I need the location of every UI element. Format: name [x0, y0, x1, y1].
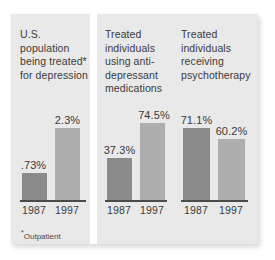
bar-value-label: .73% [21, 159, 46, 171]
axis-tick-labels: 1987 1997 [97, 204, 173, 218]
bar-value-label: 2.3% [55, 114, 80, 126]
panel-caption: Treated individuals receiving psychother… [181, 28, 254, 82]
bar-value-label: 60.2% [216, 125, 248, 137]
plot-area: 37.3% 74.5% [97, 106, 173, 202]
axis-baseline [20, 200, 86, 202]
axis-tick-labels: 1987 1997 [173, 204, 258, 218]
bar-1987: 71.1% [183, 128, 210, 200]
bar-1987: 37.3% [107, 158, 132, 200]
chart-panel-psychotherapy: Treated individuals receiving psychother… [173, 14, 258, 244]
caption-line: using anti- [105, 55, 171, 69]
caption-line: depressant [105, 69, 171, 83]
caption-line: Treated [105, 28, 171, 42]
chart-panel-antidepressant-medications: Treated individuals using anti- depressa… [97, 14, 173, 244]
caption-line: psychotherapy [181, 69, 254, 83]
axis-label-1997: 1997 [55, 204, 79, 216]
bar-1997: 74.5% [140, 123, 165, 200]
axis-tick-labels: 1987 1997 [11, 204, 90, 218]
caption-line: U.S. [20, 28, 86, 42]
bar-1997: 60.2% [218, 139, 245, 200]
bar-1997: 2.3% [55, 128, 80, 200]
axis-baseline [105, 200, 167, 202]
caption-line: individuals [181, 42, 254, 56]
bar-value-label: 74.5% [138, 109, 170, 121]
footnote-text: Outpatient treatment [21, 232, 61, 244]
bar-1987: .73% [22, 173, 47, 200]
bar-value-label: 71.1% [181, 114, 213, 126]
bar-value-label: 37.3% [104, 144, 136, 156]
axis-label-1987: 1987 [107, 204, 131, 216]
caption-line: individuals [105, 42, 171, 56]
axis-label-1987: 1987 [184, 204, 208, 216]
panel-caption: Treated individuals using anti- depressa… [105, 28, 171, 96]
panel-divider [90, 14, 97, 244]
caption-line: Treated [181, 28, 254, 42]
axis-label-1987: 1987 [22, 204, 46, 216]
caption-line: for depression [20, 69, 86, 83]
panel-caption: U.S. population being treated* for depre… [20, 28, 86, 82]
axis-label-1997: 1997 [140, 204, 164, 216]
caption-line: population [20, 42, 86, 56]
caption-line: medications [105, 82, 171, 96]
footnote: *Outpatient treatment [21, 228, 90, 244]
chart-panel-depression-treatment: U.S. population being treated* for depre… [11, 14, 90, 244]
caption-line: being treated* [20, 55, 86, 69]
plot-area: .73% 2.3% [11, 106, 90, 202]
axis-baseline [181, 200, 248, 202]
axis-label-1997: 1997 [219, 204, 243, 216]
plot-area: 71.1% 60.2% [173, 106, 258, 202]
statistics-figure-card: U.S. population being treated* for depre… [11, 14, 258, 244]
caption-line: receiving [181, 55, 254, 69]
